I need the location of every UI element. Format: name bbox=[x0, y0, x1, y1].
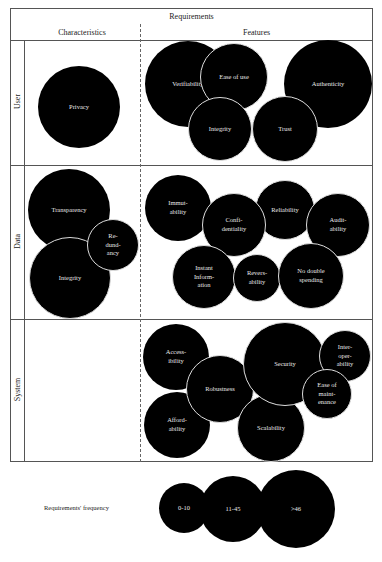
bubble-bubbles.system_features: Ease of maint- enance bbox=[302, 369, 352, 419]
bubble-bubbles.user_features: Trust bbox=[252, 96, 318, 162]
bubble-label: Inter- oper- ability bbox=[337, 343, 354, 369]
bubble-bubbles.data_features: No double spending bbox=[278, 243, 344, 309]
bubble-label: Revers- ability bbox=[247, 269, 267, 287]
bubble-label: Transparency bbox=[51, 206, 86, 215]
bubble-label: Reliability bbox=[271, 206, 298, 215]
bubble-label: Immut- ability bbox=[168, 199, 188, 217]
bubble-label: Afford- ability bbox=[167, 416, 187, 434]
bubble-label: Integrity bbox=[59, 274, 81, 283]
bubble-bubbles.user_characteristics: Privacy bbox=[38, 66, 120, 148]
bubble-label: Verifiability bbox=[172, 80, 203, 89]
bubble-label: Audit- ability bbox=[330, 216, 347, 234]
bubble-label: Security bbox=[274, 360, 296, 369]
legend-title: Requirements' frequency bbox=[44, 504, 109, 511]
row-label-data: Data bbox=[13, 212, 22, 272]
bubble-bubbles.data_features: Revers- ability bbox=[233, 254, 281, 302]
bubble-label: Re- dund- ancy bbox=[105, 232, 120, 258]
characteristics-features-divider bbox=[140, 24, 141, 462]
bubble-label: Trust bbox=[278, 125, 292, 134]
requirements-title: Requirements bbox=[10, 12, 373, 21]
bubble-label: Ease of maint- enance bbox=[317, 381, 336, 407]
features-header: Features bbox=[140, 28, 373, 37]
characteristics-header: Characteristics bbox=[24, 28, 140, 37]
bubble-label: Ease of use bbox=[219, 73, 249, 82]
bubble-legend.items: >46 bbox=[257, 470, 335, 548]
bubble-label: 11-45 bbox=[226, 505, 241, 514]
bubble-label: Access- ibility bbox=[166, 348, 187, 366]
bubble-label: Instant Inform- ation bbox=[194, 264, 214, 290]
bubble-bubbles.data_features: Instant Inform- ation bbox=[172, 245, 236, 309]
bubble-label: Scalability bbox=[257, 424, 285, 433]
data-system-divider bbox=[10, 319, 373, 320]
row-label-system: System bbox=[13, 360, 22, 420]
user-data-divider bbox=[10, 165, 373, 166]
bubble-label: 0-10 bbox=[178, 504, 190, 513]
row-label-user: User bbox=[13, 72, 22, 132]
bubble-label: Confi- dentiality bbox=[222, 216, 247, 234]
bubble-label: Authenticity bbox=[312, 80, 345, 89]
bubble-label: No double spending bbox=[297, 267, 324, 285]
bubble-bubbles.user_features: Integrity bbox=[188, 97, 252, 161]
bubble-label: Integrity bbox=[209, 125, 231, 134]
bubble-bubbles.data_characteristics: Re- dund- ancy bbox=[87, 219, 139, 271]
bubble-label: Robustness bbox=[205, 385, 235, 394]
bubble-label: Privacy bbox=[69, 103, 89, 112]
bubble-bubbles.data_features: Immut- ability bbox=[145, 175, 211, 241]
bubble-label: >46 bbox=[291, 505, 301, 514]
row-label-column-divider bbox=[24, 40, 25, 462]
